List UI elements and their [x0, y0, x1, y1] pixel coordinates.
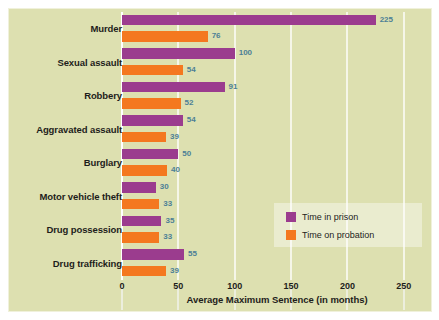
bar-value-label: 100	[239, 47, 252, 58]
bar-value-label: 33	[163, 198, 172, 209]
bar-time-on-probation-burglary[interactable]	[122, 165, 167, 176]
bar-value-label: 225	[380, 14, 393, 25]
x-tick-label-100: 100	[227, 280, 242, 292]
bar-value-label: 76	[212, 30, 221, 41]
chart-row: Murder22576	[0, 12, 439, 46]
bar-slot: 100	[122, 46, 432, 63]
bar-group: 5539	[122, 247, 432, 281]
bar-time-in-prison-aggravated-assault[interactable]	[122, 115, 183, 126]
category-label-sexual-assault: Sexual assault	[6, 46, 122, 80]
top-edge-wash	[0, 0, 439, 8]
bar-time-in-prison-motor-vehicle-theft[interactable]	[122, 182, 156, 193]
bar-slot: 39	[122, 263, 432, 280]
bar-group: 10054	[122, 46, 432, 80]
x-tick-label-0: 0	[119, 280, 124, 292]
legend-item-time-in-prison[interactable]: Time in prison	[286, 209, 422, 225]
category-label-murder: Murder	[6, 12, 122, 46]
bar-time-in-prison-drug-possession[interactable]	[122, 216, 161, 227]
bar-group: 5439	[122, 113, 432, 147]
bar-time-in-prison-sexual-assault[interactable]	[122, 48, 235, 59]
bar-value-label: 55	[188, 248, 197, 259]
category-label-drug-possession: Drug possession	[6, 213, 122, 247]
x-tick-label-250: 250	[396, 280, 411, 292]
chart-legend: Time in prison Time on probation	[274, 203, 422, 247]
category-label-burglary: Burglary	[6, 146, 122, 180]
bar-value-label: 40	[171, 164, 180, 175]
bar-time-on-probation-drug-trafficking[interactable]	[122, 266, 166, 277]
bar-slot: 40	[122, 163, 432, 180]
bar-chart: Murder22576Sexual assault10054Robbery915…	[0, 0, 439, 320]
chart-row: Aggravated assault5439	[0, 113, 439, 147]
bar-time-on-probation-sexual-assault[interactable]	[122, 65, 183, 76]
bar-time-on-probation-aggravated-assault[interactable]	[122, 132, 166, 143]
bar-time-in-prison-burglary[interactable]	[122, 149, 178, 160]
bar-slot: 54	[122, 113, 432, 130]
bar-slot: 39	[122, 129, 432, 146]
category-label-robbery: Robbery	[6, 79, 122, 113]
bar-time-on-probation-drug-possession[interactable]	[122, 232, 159, 243]
chart-row: Drug trafficking5539	[0, 247, 439, 281]
bar-group: 9152	[122, 79, 432, 113]
bar-value-label: 91	[229, 81, 238, 92]
bar-value-label: 39	[170, 265, 179, 276]
category-label-drug-trafficking: Drug trafficking	[6, 247, 122, 281]
bar-slot: 52	[122, 96, 432, 113]
bar-value-label: 54	[187, 114, 196, 125]
bar-value-label: 50	[182, 148, 191, 159]
legend-label-probation: Time on probation	[302, 229, 374, 241]
bar-value-label: 39	[170, 131, 179, 142]
bar-slot: 225	[122, 12, 432, 29]
bar-value-label: 54	[187, 64, 196, 75]
bar-time-in-prison-drug-trafficking[interactable]	[122, 249, 184, 260]
chart-row: Sexual assault10054	[0, 46, 439, 80]
x-tick-label-50: 50	[173, 280, 183, 292]
legend-item-time-on-probation[interactable]: Time on probation	[286, 227, 422, 243]
bar-value-label: 30	[160, 181, 169, 192]
legend-swatch-prison-icon	[286, 212, 296, 222]
bar-slot: 30	[122, 180, 432, 197]
bar-slot: 91	[122, 79, 432, 96]
bar-group: 5040	[122, 146, 432, 180]
bar-time-on-probation-murder[interactable]	[122, 31, 208, 42]
category-label-aggravated-assault: Aggravated assault	[6, 113, 122, 147]
legend-swatch-probation-icon	[286, 230, 296, 240]
bar-slot: 55	[122, 247, 432, 264]
bar-group: 22576	[122, 12, 432, 46]
chart-row: Robbery9152	[0, 79, 439, 113]
bar-time-on-probation-robbery[interactable]	[122, 98, 181, 109]
x-tick-label-200: 200	[340, 280, 355, 292]
x-tick-label-150: 150	[284, 280, 299, 292]
chart-row: Burglary5040	[0, 146, 439, 180]
bar-slot: 50	[122, 146, 432, 163]
bar-slot: 54	[122, 62, 432, 79]
bar-value-label: 35	[165, 215, 174, 226]
bar-time-on-probation-motor-vehicle-theft[interactable]	[122, 199, 159, 210]
bar-time-in-prison-murder[interactable]	[122, 15, 376, 26]
bar-value-label: 52	[185, 97, 194, 108]
bar-value-label: 33	[163, 231, 172, 242]
legend-label-prison: Time in prison	[302, 211, 358, 223]
bar-time-in-prison-robbery[interactable]	[122, 82, 225, 93]
category-label-motor-vehicle-theft: Motor vehicle theft	[6, 180, 122, 214]
x-axis-title: Average Maximum Sentence (in months)	[122, 294, 432, 305]
bar-slot: 76	[122, 29, 432, 46]
